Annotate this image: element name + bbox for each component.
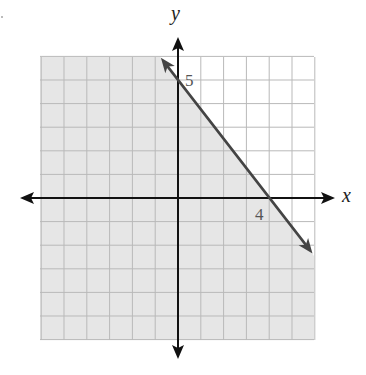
- y-intercept-label: 5: [185, 71, 194, 90]
- x-axis-label: x: [341, 184, 351, 206]
- y-axis-label: y: [169, 2, 180, 25]
- x-intercept-label: 4: [255, 205, 264, 224]
- scan-speck: [1, 16, 3, 18]
- inequality-graph: y x 5 4: [0, 0, 366, 375]
